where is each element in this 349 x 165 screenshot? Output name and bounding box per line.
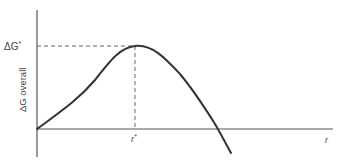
y-tick-label: ΔG*	[4, 40, 21, 52]
y-axis-label: ΔG overall	[17, 68, 28, 112]
x-axis-label: r	[325, 135, 329, 145]
x-tick-label: r*	[131, 133, 137, 144]
gibbs-energy-chart: ΔG* ΔG overall r* r	[0, 0, 349, 165]
